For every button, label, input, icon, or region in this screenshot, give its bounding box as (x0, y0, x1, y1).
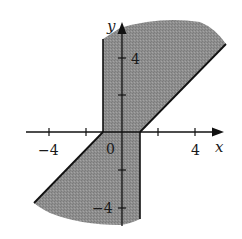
y-tick-label-4: 4 (131, 51, 140, 67)
x-tick-label-neg4: −4 (38, 142, 59, 158)
y-tick-label-neg4: −4 (92, 200, 113, 216)
x-axis-label: x (215, 138, 224, 156)
x-tick-label-0: 0 (106, 141, 115, 157)
y-axis-label: y (106, 17, 116, 35)
x-tick-label-4: 4 (191, 142, 200, 158)
x-axis-arrow-icon (212, 128, 224, 137)
inequality-graph: −4 0 4 x 4 −4 y (0, 0, 242, 239)
